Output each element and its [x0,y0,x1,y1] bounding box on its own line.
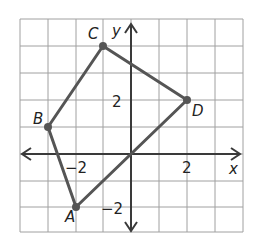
y-axis-label: y [111,22,122,40]
point-c [99,42,107,50]
label-d: D [192,102,204,120]
label-b: B [33,110,43,128]
tick-y-2: 2 [112,93,122,111]
tick-y-neg2: −2 [101,200,123,218]
label-a: A [64,208,75,226]
point-d [183,96,191,104]
tick-x-2: 2 [182,159,192,177]
point-b [44,123,52,131]
label-c: C [88,25,99,43]
coordinate-plane: A B C D y x −2 2 2 −2 [0,0,257,244]
x-axis-label: x [228,160,238,178]
tick-x-neg2: −2 [65,159,87,177]
